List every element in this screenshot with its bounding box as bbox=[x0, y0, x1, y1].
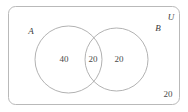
region-count-b-only: 20 bbox=[115, 54, 125, 64]
region-count-a-only: 40 bbox=[60, 54, 70, 64]
region-count-a-and-b: 20 bbox=[89, 54, 99, 64]
region-count-outside: 20 bbox=[164, 89, 174, 99]
venn-diagram-figure: A B U 40 20 20 20 bbox=[0, 0, 188, 112]
set-b-label: B bbox=[155, 23, 161, 33]
set-a-label: A bbox=[27, 26, 34, 36]
venn-diagram-canvas: A B U 40 20 20 20 bbox=[0, 0, 188, 112]
universal-set-label: U bbox=[168, 12, 175, 22]
